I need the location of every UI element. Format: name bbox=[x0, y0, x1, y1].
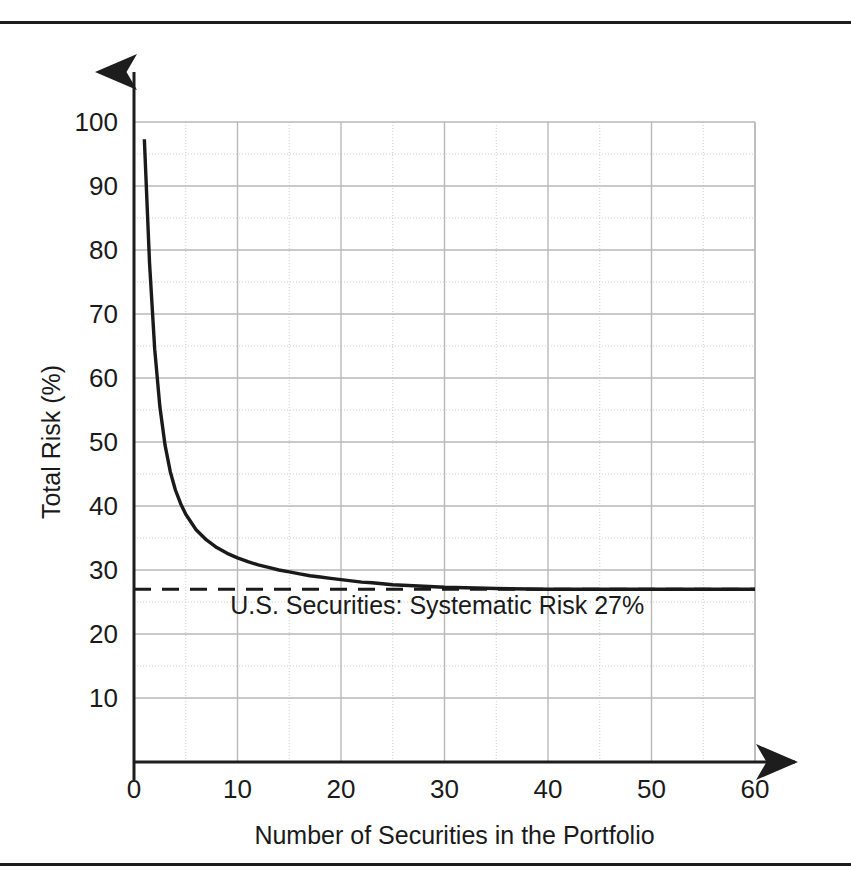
y-tick-label: 20 bbox=[89, 619, 118, 649]
y-tick-label: 100 bbox=[75, 107, 118, 137]
y-tick-label: 40 bbox=[89, 491, 118, 521]
y-axis-tick-labels: 102030405060708090100 bbox=[75, 107, 118, 713]
y-tick-label: 60 bbox=[89, 363, 118, 393]
y-tick-label: 70 bbox=[89, 299, 118, 329]
x-axis-tick-labels: 0102030405060 bbox=[127, 774, 770, 804]
y-tick-label: 30 bbox=[89, 555, 118, 585]
x-tick-label: 0 bbox=[127, 774, 141, 804]
axis-lines bbox=[133, 72, 795, 780]
risk-diversification-chart: 102030405060708090100 0102030405060 Tota… bbox=[0, 0, 851, 882]
x-tick-label: 60 bbox=[741, 774, 770, 804]
x-axis-title: Number of Securities in the Portfolio bbox=[254, 821, 654, 849]
y-axis-title: Total Risk (%) bbox=[37, 365, 65, 519]
y-tick-label: 80 bbox=[89, 235, 118, 265]
chart-plot-area: 102030405060708090100 0102030405060 Tota… bbox=[0, 0, 851, 882]
y-tick-label: 50 bbox=[89, 427, 118, 457]
x-tick-label: 40 bbox=[534, 774, 563, 804]
y-tick-label: 90 bbox=[89, 171, 118, 201]
x-tick-label: 30 bbox=[430, 774, 459, 804]
x-tick-label: 20 bbox=[327, 774, 356, 804]
systematic-risk-annotation: U.S. Securities: Systematic Risk 27% bbox=[230, 591, 644, 619]
figure-container: 102030405060708090100 0102030405060 Tota… bbox=[0, 0, 851, 882]
y-tick-label: 10 bbox=[89, 683, 118, 713]
x-tick-label: 10 bbox=[223, 774, 252, 804]
x-tick-label: 50 bbox=[637, 774, 666, 804]
